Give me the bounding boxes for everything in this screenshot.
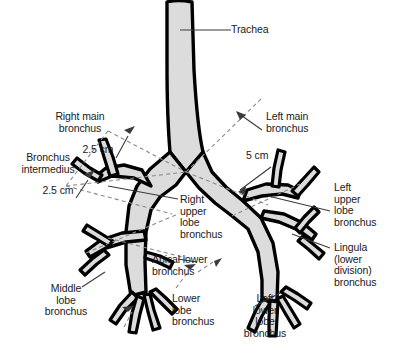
measurement-left-main-length: 5 cm: [246, 150, 268, 162]
airway-anatomy: [72, 1, 324, 336]
measurement-bronchus-intermedius-length: 2.5 cm: [32, 185, 84, 197]
label-left-upper-lobe-bronchus: Left upper lobe bronchus: [334, 182, 376, 228]
label-middle-lobe-bronchus: Middle lobe bronchus: [30, 283, 102, 318]
lul-branch-anterior: [292, 167, 319, 196]
right-upper-lobe-bronchus-shape: [96, 165, 151, 186]
arrowhead-left-main: [236, 111, 246, 120]
label-lower-lobe-bronchus: Lower lobe bronchus: [172, 293, 214, 328]
label-right-upper-lobe-bronchus: Right upper lobe bronchus: [180, 194, 222, 240]
arrowhead-5cm: [238, 186, 246, 195]
label-left-lower-lobe-bronchus: Left lower lobe bronchus: [232, 293, 298, 339]
label-bronchus-intermedius: Bronchus intermedius: [8, 152, 88, 175]
trachea-shape: [167, 1, 203, 172]
arrowhead-apical: [214, 258, 222, 267]
label-apical-lower-bronchus: Apical lower bronchus: [152, 254, 207, 277]
label-trachea: Trachea: [231, 24, 268, 36]
lul-branch-apical: [272, 150, 285, 187]
label-left-main-bronchus: Left main bronchus: [266, 111, 308, 134]
label-lingula-bronchus: Lingula (lower division) bronchus: [334, 242, 376, 288]
label-right-main-bronchus: Right main bronchus: [34, 111, 126, 134]
tracheobronchial-tree-figure: Trachea Right main bronchus 2.5 cm Bronc…: [0, 0, 395, 353]
